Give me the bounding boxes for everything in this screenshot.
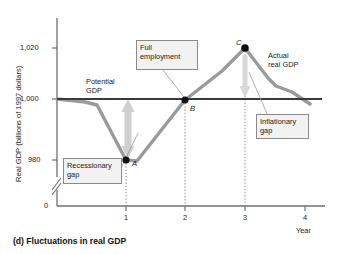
leader-line-full-employment bbox=[163, 70, 184, 97]
x-axis-title: Year bbox=[296, 226, 311, 235]
data-point-label-a: A bbox=[132, 159, 137, 168]
annotation-full-employment-line1: Full bbox=[140, 43, 152, 52]
inflationary-gap-arrow bbox=[240, 55, 251, 98]
annotation-inflationary-gap-line2: gap bbox=[260, 126, 272, 135]
figure-fluctuations-in-real-gdp: Real GDP (billions of 1997 dollars) 1,02… bbox=[0, 0, 345, 254]
data-point-label-c: C bbox=[236, 38, 241, 47]
x-tick-label-3: 3 bbox=[243, 213, 247, 222]
x-tick-label-2: 2 bbox=[183, 213, 187, 222]
y-axis-title: Real GDP (billions of 1997 dollars) bbox=[14, 66, 23, 182]
annotation-recessionary-gap-line2: gap bbox=[67, 170, 79, 179]
annotation-actual-real-gdp-line2: real GDP bbox=[268, 60, 298, 69]
annotation-potential-gdp: Potential GDP bbox=[86, 78, 115, 95]
annotation-actual-real-gdp: Actual real GDP bbox=[268, 52, 298, 69]
data-point-b[interactable] bbox=[181, 96, 188, 103]
annotation-inflationary-gap: Inflationary gap bbox=[256, 114, 309, 139]
annotation-inflationary-gap-line1: Inflationary bbox=[260, 117, 296, 126]
x-tick-label-4: 4 bbox=[303, 213, 307, 222]
data-point-a[interactable] bbox=[122, 156, 129, 163]
x-tick-label-1: 1 bbox=[124, 213, 128, 222]
annotation-recessionary-gap-line1: Recessionary bbox=[67, 161, 112, 170]
y-tick-label-0: 0 bbox=[44, 201, 48, 210]
data-point-c[interactable] bbox=[241, 44, 249, 52]
x-tick-marks bbox=[126, 206, 305, 211]
annotation-full-employment-line2: employment bbox=[140, 52, 180, 61]
annotation-full-employment: Full employment bbox=[136, 40, 198, 70]
recessionary-gap-arrow bbox=[122, 99, 135, 159]
figure-caption: (d) Fluctuations in real GDP bbox=[13, 236, 126, 246]
leader-line-inflationary-gap bbox=[249, 72, 268, 116]
y-tick-marks bbox=[52, 48, 57, 160]
data-point-label-b: B bbox=[190, 104, 195, 113]
y-tick-label-1020: 1,020 bbox=[20, 43, 39, 52]
y-tick-label-980: 980 bbox=[28, 155, 40, 164]
drop-lines-group bbox=[126, 48, 245, 206]
annotation-recessionary-gap: Recessionary gap bbox=[63, 158, 122, 184]
y-tick-label-1000: 1,000 bbox=[20, 94, 39, 103]
annotation-potential-gdp-line2: GDP bbox=[86, 86, 102, 95]
